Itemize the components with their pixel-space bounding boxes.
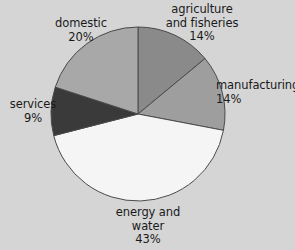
pie-label-services-line1: services (2, 98, 64, 112)
pie-label-domestic: domestic 20% (34, 17, 128, 44)
pie-label-manufacturing-line1: manufacturing (216, 79, 295, 93)
pie-label-energy-line2: water (96, 220, 200, 234)
pie-value-domestic: 20% (34, 31, 128, 45)
pie-chart: agriculture and fisheries 14% manufactur… (0, 0, 295, 250)
pie-label-energy-and-water: energy and water 43% (96, 206, 200, 247)
pie-label-domestic-line1: domestic (34, 17, 128, 31)
pie-label-agriculture-line1: agriculture (142, 3, 262, 17)
pie-label-energy-line1: energy and (96, 206, 200, 220)
pie-value-manufacturing: 14% (216, 93, 295, 107)
pie-value-services: 9% (2, 112, 64, 126)
pie-value-energy-and-water: 43% (96, 233, 200, 247)
pie-value-agriculture-and-fisheries: 14% (142, 30, 262, 44)
pie-label-services: services 9% (2, 98, 64, 125)
pie-label-agriculture-and-fisheries: agriculture and fisheries 14% (142, 3, 262, 44)
pie-label-manufacturing: manufacturing 14% (216, 79, 295, 106)
pie-label-agriculture-line2: and fisheries (142, 17, 262, 31)
